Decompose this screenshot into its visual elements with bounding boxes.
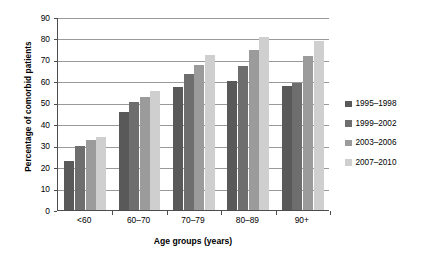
bar-group (112, 18, 166, 210)
x-axis-tick-label: 60–70 (109, 215, 169, 225)
bar (194, 65, 204, 210)
bar (314, 41, 324, 210)
bar-group (167, 18, 221, 210)
legend-label: 2007–2010 (356, 158, 397, 167)
y-axis-tick-label: 50 (28, 98, 50, 108)
y-axis-tick-mark (54, 211, 58, 212)
bar (205, 55, 215, 210)
y-axis-tick-mark (54, 104, 58, 105)
y-axis-tick-label: 30 (28, 141, 50, 151)
legend-label: 1995–1998 (356, 99, 397, 108)
bar (249, 50, 259, 210)
y-axis-tick-mark (54, 147, 58, 148)
x-axis-tick-label: 80–89 (217, 215, 277, 225)
bar (227, 81, 237, 210)
legend-swatch-icon (345, 101, 352, 108)
bar (259, 37, 269, 210)
bar (64, 161, 74, 210)
x-axis-tick-label: 90+ (272, 215, 332, 225)
bar (86, 140, 96, 210)
x-axis-tick-label: <60 (54, 215, 114, 225)
x-axis-title: Age groups (years) (57, 236, 329, 246)
y-axis-tick-label: 80 (28, 34, 50, 44)
bar (292, 83, 302, 210)
legend-item: 2003–2006 (345, 133, 396, 153)
y-axis-tick-mark (54, 39, 58, 40)
y-axis-tick-mark (54, 18, 58, 19)
y-axis-tick-label: 10 (28, 184, 50, 194)
legend-swatch-icon (345, 159, 352, 166)
bar (184, 74, 194, 210)
legend-swatch-icon (345, 120, 352, 127)
bar (129, 102, 139, 210)
y-axis-tick-label: 90 (28, 13, 50, 23)
bar-group (58, 18, 112, 210)
bar (303, 56, 313, 210)
y-axis-tick-label: 70 (28, 55, 50, 65)
bar (75, 146, 85, 210)
y-axis-tick-mark (54, 61, 58, 62)
bar (119, 112, 129, 210)
bar (238, 66, 248, 210)
bar (173, 87, 183, 210)
bar (96, 137, 106, 210)
legend-label: 1999–2002 (356, 119, 397, 128)
y-axis-tick-mark (54, 82, 58, 83)
bar-group (221, 18, 275, 210)
x-axis-tick-label: 70–79 (163, 215, 223, 225)
y-axis-tick-mark (54, 190, 58, 191)
y-axis-tick-label: 20 (28, 163, 50, 173)
legend-label: 2003–2006 (356, 138, 397, 147)
legend-item: 2007–2010 (345, 153, 396, 173)
bar-chart: Percentage of comorbid patients 01020304… (0, 0, 430, 263)
y-axis-tick-label: 40 (28, 120, 50, 130)
bar (140, 97, 150, 210)
y-axis-tick-mark (54, 168, 58, 169)
bar (282, 86, 292, 210)
legend-swatch-icon (345, 140, 352, 147)
legend: 1995–19981999–20022003–20062007–2010 (345, 94, 396, 172)
y-axis-tick-mark (54, 125, 58, 126)
bar (150, 91, 160, 210)
legend-item: 1999–2002 (345, 114, 396, 134)
legend-item: 1995–1998 (345, 94, 396, 114)
y-axis-tick-label: 60 (28, 77, 50, 87)
y-axis-tick-label: 0 (28, 206, 50, 216)
plot-area (57, 18, 329, 211)
bar-group (276, 18, 330, 210)
